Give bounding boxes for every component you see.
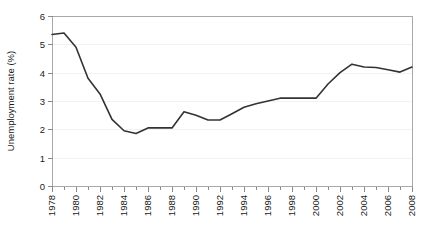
x-tick-label: 1982 (94, 195, 105, 216)
x-tick-label: 1984 (118, 195, 129, 216)
y-axis-title: Unemployment rate (%) (5, 51, 16, 151)
x-tick-label: 1988 (166, 195, 177, 216)
unemployment-rate-line (52, 33, 412, 134)
x-tick-label: 2002 (334, 195, 345, 216)
y-axis-tick-labels: 0123456 (40, 11, 45, 192)
unemployment-line-chart: 0123456 19781980198219841986198819901992… (0, 0, 432, 238)
y-tick-label: 1 (40, 153, 45, 164)
y-axis-title-text: Unemployment rate (%) (5, 51, 16, 151)
y-axis-ticks (48, 17, 53, 187)
y-tick-label: 6 (40, 11, 45, 22)
y-tick-label: 2 (40, 124, 45, 135)
y-tick-label: 0 (40, 181, 45, 192)
grid-lines (52, 45, 412, 159)
x-tick-label: 2006 (382, 195, 393, 216)
y-tick-label: 3 (40, 96, 45, 107)
x-tick-label: 1980 (70, 195, 81, 216)
x-tick-label: 2008 (406, 195, 417, 216)
x-tick-label: 1978 (46, 195, 57, 216)
y-tick-label: 5 (40, 39, 45, 50)
x-tick-label: 1996 (262, 195, 273, 216)
x-tick-label: 1992 (214, 195, 225, 216)
x-axis-tick-labels: 1978198019821984198619881990199219941996… (46, 195, 417, 216)
x-tick-label: 2004 (358, 195, 369, 216)
x-tick-label: 1998 (286, 195, 297, 216)
x-tick-label: 1994 (238, 195, 249, 216)
y-tick-label: 4 (40, 68, 45, 79)
data-series-line (52, 33, 412, 134)
x-tick-label: 2000 (310, 195, 321, 216)
x-axis-ticks (53, 187, 413, 192)
x-tick-label: 1986 (142, 195, 153, 216)
x-tick-label: 1990 (190, 195, 201, 216)
chart-figure: 0123456 19781980198219841986198819901992… (0, 0, 432, 238)
